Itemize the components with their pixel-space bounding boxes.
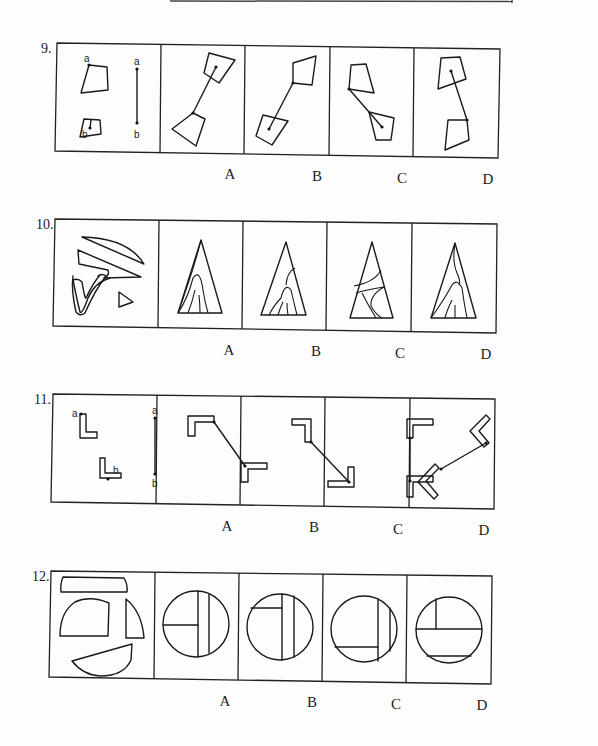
q12-option-b-figure[interactable] bbox=[247, 594, 313, 660]
q10-divider bbox=[326, 222, 327, 330]
q11-option-d-figure[interactable] bbox=[418, 415, 490, 499]
q11-divider bbox=[324, 397, 325, 506]
q12-divider bbox=[154, 572, 155, 679]
q12-option-d-figure[interactable] bbox=[416, 597, 482, 663]
svg-text:a: a bbox=[134, 56, 140, 67]
q12-divider bbox=[406, 575, 407, 683]
figures-canvas: a b a b bbox=[0, 0, 598, 746]
q12-row bbox=[49, 571, 492, 684]
q9-option-a-figure[interactable] bbox=[172, 53, 235, 146]
q10-divider bbox=[242, 221, 243, 329]
q9-option-c-figure[interactable] bbox=[347, 64, 394, 140]
q12-frame bbox=[49, 571, 492, 684]
q12-option-c-figure[interactable] bbox=[331, 596, 397, 662]
svg-text:b: b bbox=[152, 478, 158, 489]
q12-divider bbox=[322, 574, 323, 681]
svg-text:b: b bbox=[113, 465, 119, 476]
q11-row: a b a b bbox=[51, 394, 495, 509]
q9-row: a b a b bbox=[55, 43, 500, 158]
worksheet-page: 9. 10. 11. 12. A B C D A B C D A B C D A… bbox=[0, 0, 598, 746]
svg-text:a: a bbox=[152, 405, 158, 416]
q11-divider bbox=[240, 396, 241, 505]
q11-frame bbox=[51, 394, 495, 509]
q11-option-a-figure[interactable] bbox=[188, 416, 267, 482]
q10-option-b-figure[interactable] bbox=[261, 242, 306, 315]
q9-divider bbox=[329, 46, 330, 155]
q10-divider bbox=[158, 220, 159, 328]
q9-frame bbox=[55, 43, 500, 158]
q9-divider bbox=[413, 48, 414, 156]
q10-divider bbox=[411, 223, 412, 332]
top-rule bbox=[170, 0, 512, 3]
q10-prompt-figure bbox=[72, 237, 144, 315]
q9-prompt-figure: a b a b bbox=[80, 53, 140, 140]
q12-option-a-figure[interactable] bbox=[163, 591, 229, 657]
svg-text:b: b bbox=[82, 129, 88, 140]
q10-option-a-figure[interactable] bbox=[178, 240, 222, 313]
svg-text:b: b bbox=[134, 129, 140, 140]
q11-prompt-figure: a b a b bbox=[72, 405, 158, 489]
q10-row bbox=[53, 219, 497, 333]
q9-option-b-figure[interactable] bbox=[256, 56, 316, 145]
q9-divider bbox=[244, 45, 245, 154]
svg-text:a: a bbox=[84, 53, 90, 64]
q9-option-d-figure[interactable] bbox=[438, 57, 469, 150]
q12-divider bbox=[238, 573, 239, 680]
q10-option-c-figure[interactable] bbox=[350, 242, 393, 318]
q10-option-d-figure[interactable] bbox=[431, 243, 476, 318]
q9-divider bbox=[160, 44, 161, 153]
q12-prompt-figure bbox=[60, 577, 144, 676]
q11-option-b-figure[interactable] bbox=[292, 419, 354, 487]
svg-text:a: a bbox=[72, 408, 78, 419]
